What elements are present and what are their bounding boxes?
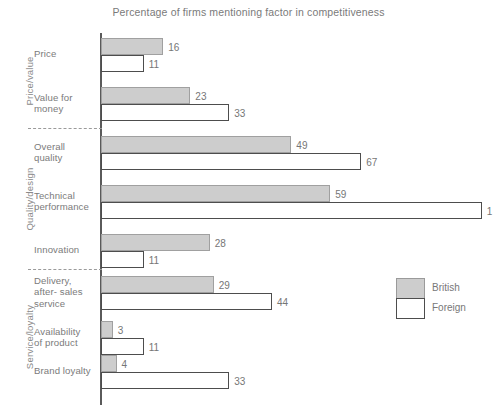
group-separator bbox=[28, 269, 102, 270]
bar-value-label: 44 bbox=[277, 297, 288, 308]
category-label-line: Innovation bbox=[34, 244, 100, 256]
bar-foreign bbox=[101, 104, 229, 121]
legend-swatch-british bbox=[396, 278, 425, 299]
bar-british bbox=[101, 276, 214, 293]
bar-value-label: 3 bbox=[118, 325, 124, 336]
bar-british bbox=[101, 185, 330, 202]
group-label: Price/value bbox=[24, 56, 35, 105]
category-label-line: Delivery, bbox=[34, 275, 100, 287]
bar-value-label: 59 bbox=[335, 189, 346, 200]
bar-value-label: 11 bbox=[149, 342, 159, 353]
group-separator bbox=[28, 128, 102, 129]
bar-foreign bbox=[101, 153, 361, 170]
category-label: Price bbox=[34, 48, 100, 60]
category-label-line: Value for bbox=[34, 92, 100, 104]
category-label: Value formoney bbox=[34, 92, 100, 115]
category-label-line: Price bbox=[34, 48, 100, 60]
bar-value-label: 16 bbox=[168, 42, 179, 53]
bar-foreign bbox=[101, 338, 144, 355]
bar-value-label: 4 bbox=[122, 359, 128, 370]
category-label: Delivery,after- salesservice bbox=[34, 275, 100, 310]
category-label-line: Overall bbox=[34, 141, 100, 153]
bar-value-label: 33 bbox=[234, 108, 245, 119]
bar-value-label: 49 bbox=[296, 140, 307, 151]
category-label-line: performance bbox=[34, 201, 100, 213]
group-label: Quality/design bbox=[24, 167, 35, 230]
bar-foreign bbox=[101, 55, 144, 72]
category-label: Innovation bbox=[34, 244, 100, 256]
bar-foreign bbox=[101, 202, 482, 219]
category-label: Technicalperformance bbox=[34, 190, 100, 213]
category-label-line: service bbox=[34, 298, 100, 310]
bar-chart: Percentage of firms mentioning factor in… bbox=[0, 0, 497, 420]
category-label: Availabilityof product bbox=[34, 326, 100, 349]
category-label: Overallquality bbox=[34, 141, 100, 164]
category-label-line: Availability bbox=[34, 326, 100, 338]
bar-british bbox=[101, 234, 210, 251]
category-label-line: quality bbox=[34, 152, 100, 164]
group-label: Service/loyalty bbox=[24, 305, 35, 369]
category-label-line: of product bbox=[34, 337, 100, 349]
bar-value-label: 33 bbox=[234, 376, 245, 387]
category-label-line: Technical bbox=[34, 190, 100, 202]
bar-foreign bbox=[101, 372, 229, 389]
plot-area: Price1611Value formoney2333Overallqualit… bbox=[0, 0, 497, 420]
bar-foreign bbox=[101, 293, 272, 310]
bar-british bbox=[101, 355, 117, 372]
legend-label-foreign: Foreign bbox=[432, 302, 466, 313]
bar-british bbox=[101, 87, 190, 104]
bar-value-label: 11 bbox=[149, 255, 159, 266]
bar-value-label: 23 bbox=[195, 91, 206, 102]
bar-value-label: 29 bbox=[219, 280, 230, 291]
bar-value-label: 1 bbox=[487, 206, 493, 217]
legend-swatch-foreign bbox=[396, 298, 425, 319]
bar-value-label: 67 bbox=[366, 157, 377, 168]
bar-british bbox=[101, 321, 113, 338]
bar-value-label: 11 bbox=[149, 59, 159, 70]
legend-label-british: British bbox=[432, 282, 460, 293]
bar-british bbox=[101, 38, 163, 55]
bar-foreign bbox=[101, 251, 144, 268]
category-label-line: money bbox=[34, 103, 100, 115]
category-label-line: after- sales bbox=[34, 286, 100, 298]
category-label-line: Brand loyalty bbox=[34, 365, 100, 377]
category-label: Brand loyalty bbox=[34, 365, 100, 377]
bar-value-label: 28 bbox=[215, 238, 226, 249]
bar-british bbox=[101, 136, 291, 153]
